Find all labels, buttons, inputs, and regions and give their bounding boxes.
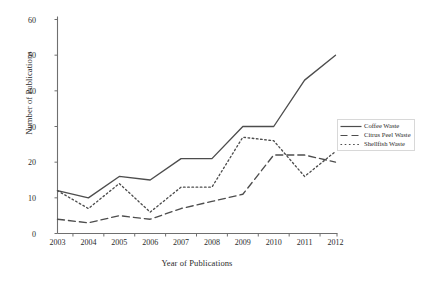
legend-item: Shellfish Waste	[340, 140, 411, 148]
legend-item: Citrus Peel Waste	[340, 131, 411, 139]
legend-item-label: Citrus Peel Waste	[364, 131, 411, 139]
legend-line-swatch	[340, 123, 362, 130]
series-line-coffee-waste	[58, 55, 336, 198]
legend-item: Coffee Waste	[340, 122, 411, 130]
chart-legend: Coffee WasteCitrus Peel WasteShellfish W…	[337, 119, 415, 151]
legend-item-label: Shellfish Waste	[364, 140, 405, 148]
x-axis-title: Year of Publications	[57, 258, 337, 268]
x-axis-tick-label: 2012	[316, 238, 356, 247]
legend-item-label: Coffee Waste	[364, 122, 399, 130]
series-line-citrus-peel-waste	[58, 155, 336, 223]
legend-line-swatch	[340, 132, 362, 139]
chart-figure: Number of Publications 6050403020100 200…	[0, 0, 431, 286]
legend-line-swatch	[340, 141, 362, 148]
series-line-shellfish-waste	[58, 137, 336, 212]
